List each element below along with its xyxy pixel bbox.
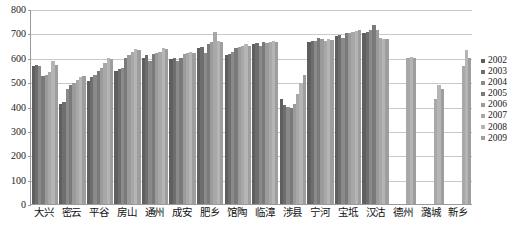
legend-item[interactable]: 2009 xyxy=(481,134,507,144)
y-axis-tick-label: 300 xyxy=(11,127,26,137)
legend-swatch-icon xyxy=(481,103,485,107)
y-axis-tick-label: 100 xyxy=(11,176,26,186)
legend-swatch-icon xyxy=(481,114,485,118)
y-axis-tick-label: 500 xyxy=(11,78,26,88)
bar xyxy=(165,49,168,204)
plot-area: 0100200300400500600700800 xyxy=(30,10,472,205)
bar-group xyxy=(169,10,197,204)
legend-item[interactable]: 2002 xyxy=(481,56,507,66)
legend-swatch-icon xyxy=(481,59,485,63)
x-axis-label: 宁河 xyxy=(306,207,334,219)
legend-swatch-icon xyxy=(481,70,485,74)
bar xyxy=(82,76,85,204)
x-axis-labels: 大兴密云平谷房山通州成安肥乡馆陶临漳涉县宁河宝坻汉沽德州潞城新乡 xyxy=(30,207,472,219)
bar xyxy=(220,42,223,204)
bar-group xyxy=(307,10,335,204)
x-axis-label: 平谷 xyxy=(85,207,113,219)
x-axis-label: 涉县 xyxy=(279,207,307,219)
bar xyxy=(192,53,195,204)
legend-label: 2004 xyxy=(488,78,507,88)
legend-swatch-icon xyxy=(481,81,485,85)
bar-group xyxy=(196,10,224,204)
x-axis-label: 临漳 xyxy=(251,207,279,219)
bar-groups xyxy=(31,10,472,204)
bar xyxy=(330,40,333,204)
bar-group xyxy=(31,10,59,204)
bar-chart: 0100200300400500600700800 大兴密云平谷房山通州成安肥乡… xyxy=(0,0,522,240)
legend-label: 2009 xyxy=(488,134,507,144)
x-axis-label: 成安 xyxy=(168,207,196,219)
bar xyxy=(110,59,113,204)
legend-item[interactable]: 2008 xyxy=(481,123,507,133)
bar xyxy=(413,58,416,204)
x-axis-label: 大兴 xyxy=(30,207,58,219)
bar-group xyxy=(279,10,307,204)
legend-label: 2005 xyxy=(488,89,507,99)
bar xyxy=(385,39,388,204)
bar-group xyxy=(224,10,252,204)
x-axis-label: 通州 xyxy=(141,207,169,219)
y-axis-tick-label: 0 xyxy=(21,200,26,210)
legend-item[interactable]: 2006 xyxy=(481,100,507,110)
chart-legend: 20022003200420052006200720082009 xyxy=(481,56,507,143)
bar-group xyxy=(334,10,362,204)
y-axis-tick-mark xyxy=(28,205,31,206)
bar xyxy=(275,42,278,204)
bar-group xyxy=(444,10,472,204)
x-axis-label: 肥乡 xyxy=(196,207,224,219)
bar xyxy=(358,30,361,204)
bar-group xyxy=(59,10,87,204)
x-axis-label: 宝坻 xyxy=(334,207,362,219)
legend-item[interactable]: 2004 xyxy=(481,78,507,88)
x-axis-label: 潞城 xyxy=(417,207,445,219)
legend-item[interactable]: 2005 xyxy=(481,89,507,99)
bar-group xyxy=(114,10,142,204)
bar xyxy=(468,58,471,204)
bar-group xyxy=(389,10,417,204)
x-axis-label: 新乡 xyxy=(444,207,472,219)
legend-label: 2006 xyxy=(488,100,507,110)
bar-group xyxy=(362,10,390,204)
legend-label: 2008 xyxy=(488,123,507,133)
legend-swatch-icon xyxy=(481,136,485,140)
x-axis-label: 德州 xyxy=(389,207,417,219)
x-axis-label: 馆陶 xyxy=(223,207,251,219)
bar-group xyxy=(417,10,445,204)
bar xyxy=(55,65,58,204)
bar-group xyxy=(141,10,169,204)
bar-group xyxy=(86,10,114,204)
x-axis-label: 密云 xyxy=(58,207,86,219)
legend-swatch-icon xyxy=(481,92,485,96)
bar xyxy=(303,75,306,204)
y-axis-tick-label: 200 xyxy=(11,151,26,161)
y-axis-tick-label: 600 xyxy=(11,54,26,64)
legend-item[interactable]: 2003 xyxy=(481,67,507,77)
y-axis-tick-label: 400 xyxy=(11,103,26,113)
bar xyxy=(137,50,140,204)
bar xyxy=(248,46,251,204)
x-axis-label: 房山 xyxy=(113,207,141,219)
legend-label: 2003 xyxy=(488,67,507,77)
legend-item[interactable]: 2007 xyxy=(481,111,507,121)
legend-label: 2007 xyxy=(488,111,507,121)
bar-group xyxy=(252,10,280,204)
bar xyxy=(441,89,444,204)
legend-swatch-icon xyxy=(481,125,485,129)
y-axis-tick-label: 800 xyxy=(11,5,26,15)
legend-label: 2002 xyxy=(488,56,507,66)
x-axis-label: 汉沽 xyxy=(362,207,390,219)
y-axis-tick-label: 700 xyxy=(11,29,26,39)
